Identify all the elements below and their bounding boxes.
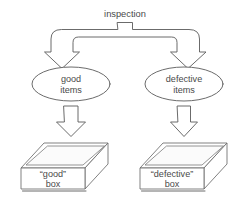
split-arrow-connector bbox=[45, 23, 207, 69]
defective-items-label-line2: items bbox=[173, 85, 195, 95]
inspection-flow-diagram: inspection good items bbox=[0, 0, 250, 218]
good-down-arrow bbox=[57, 106, 86, 137]
defective-box: “defective” box bbox=[140, 143, 227, 191]
good-items-ellipse bbox=[32, 67, 110, 101]
good-box-label-line2: box bbox=[46, 179, 61, 189]
diagram-canvas: inspection good items bbox=[0, 0, 250, 218]
defective-box-label-line2: box bbox=[165, 179, 180, 189]
defective-box-label-line1: “defective” bbox=[151, 169, 193, 179]
defective-items-ellipse bbox=[145, 67, 223, 101]
defective-items-label-line1: defective bbox=[166, 74, 202, 84]
good-box: “good” box bbox=[21, 143, 108, 191]
defective-down-arrow bbox=[171, 106, 198, 137]
inspection-label: inspection bbox=[104, 9, 146, 19]
good-items-label-line1: good bbox=[61, 74, 81, 84]
good-box-label-line1: “good” bbox=[40, 169, 66, 179]
branch-defective: defective items “defective” box bbox=[140, 67, 227, 191]
branch-good: good items “good” box bbox=[21, 67, 110, 191]
good-items-label-line2: items bbox=[60, 85, 82, 95]
